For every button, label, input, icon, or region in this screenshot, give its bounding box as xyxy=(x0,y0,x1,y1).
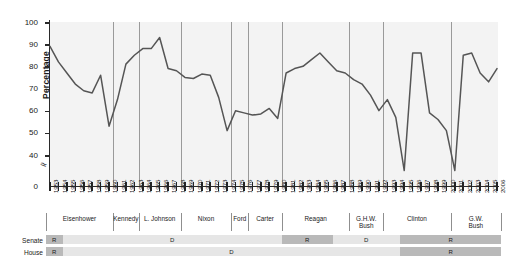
x-tick-label: 1988 xyxy=(348,180,355,193)
x-tick-label: 1991 xyxy=(373,180,380,193)
president-term-label: Kennedy xyxy=(113,215,138,222)
x-tick-label: 1968 xyxy=(179,180,186,193)
president-term-label: G.H.W. Bush xyxy=(349,215,383,229)
x-tick-label: 1981 xyxy=(289,180,296,193)
x-tick-label: 1983 xyxy=(305,180,312,193)
x-tick-label: 1972 xyxy=(213,180,220,193)
senate-control-segment: R xyxy=(46,235,63,244)
x-tick-label: 1975 xyxy=(238,180,245,193)
senate-control-segment: D xyxy=(333,235,400,244)
house-control-segment: R xyxy=(400,247,501,256)
house-control-segment: D xyxy=(63,247,400,256)
x-tick-label: 1986 xyxy=(331,180,338,193)
x-tick-label: 1999 xyxy=(440,180,447,193)
x-tick-label: 1953 xyxy=(52,180,59,193)
x-tick-label: 1997 xyxy=(423,180,430,193)
president-term-label: Nixon xyxy=(181,215,232,222)
president-term-label: Clinton xyxy=(383,215,450,222)
x-tick-label: 1990 xyxy=(364,180,371,193)
x-tick-label: 1994 xyxy=(398,180,405,193)
x-tick-label: 1970 xyxy=(196,180,203,193)
x-tick-label: 1959 xyxy=(103,180,110,193)
president-term-label: L. Johnson xyxy=(139,215,181,222)
x-tick-label: 2001 xyxy=(457,180,464,193)
house-row-label: House xyxy=(0,249,43,256)
x-tick-label: 1985 xyxy=(322,180,329,193)
senate-control-segment: D xyxy=(63,235,282,244)
senate-row-label: Senate xyxy=(0,237,43,244)
x-tick-label: 1982 xyxy=(297,180,304,193)
president-term-label: Reagan xyxy=(282,215,349,222)
x-tick-label: 1964 xyxy=(145,180,152,193)
x-tick-label: 1963 xyxy=(137,180,144,193)
x-tick-label: 1954 xyxy=(61,180,68,193)
x-tick-label: 1961 xyxy=(120,180,127,193)
chart-root: Percentage 1009080706050400 ≃ 1953195419… xyxy=(0,0,513,273)
x-tick-label: 1987 xyxy=(339,180,346,193)
senate-control-segment: R xyxy=(400,235,501,244)
x-tick-label: 1978 xyxy=(263,180,270,193)
x-tick-label: 1998 xyxy=(432,180,439,193)
x-tick-label: 1957 xyxy=(86,180,93,193)
senate-control-segment: R xyxy=(282,235,333,244)
x-tick-label: 1976 xyxy=(246,180,253,193)
x-tick-label: 1967 xyxy=(170,180,177,193)
x-tick-label: 2003 xyxy=(474,180,481,193)
house-control-segment: R xyxy=(46,247,63,256)
x-tick-label: 1969 xyxy=(187,180,194,193)
x-tick-label: 1989 xyxy=(356,180,363,193)
x-tick-label: 2006 xyxy=(499,180,506,193)
x-tick-label: 1979 xyxy=(272,180,279,193)
data-line-presidential-support xyxy=(50,38,497,171)
x-tick-label: 1980 xyxy=(280,180,287,193)
president-term-label: G.W. Bush xyxy=(451,215,502,229)
x-tick-label: 1971 xyxy=(204,180,211,193)
president-term-label: Eisenhower xyxy=(46,215,113,222)
x-tick-label: 2004 xyxy=(483,180,490,193)
x-tick-label: 1956 xyxy=(78,180,85,193)
president-label-separator xyxy=(501,213,502,231)
x-tick-label: 1960 xyxy=(111,180,118,193)
x-tick-label: 1995 xyxy=(407,180,414,193)
x-tick-label: 1996 xyxy=(415,180,422,193)
x-tick-label: 1993 xyxy=(390,180,397,193)
x-tick-label: 1965 xyxy=(154,180,161,193)
x-tick-label: 1977 xyxy=(255,180,262,193)
x-tick-label: 1984 xyxy=(314,180,321,193)
x-tick-label: 2005 xyxy=(491,180,498,193)
x-tick-label: 1955 xyxy=(69,180,76,193)
president-term-label: Carter xyxy=(248,215,282,222)
x-tick-label: 1962 xyxy=(128,180,135,193)
x-tick-label: 2000 xyxy=(449,180,456,193)
x-tick-label: 1974 xyxy=(230,180,237,193)
x-tick-mark xyxy=(49,182,51,191)
president-term-label: Ford xyxy=(231,215,248,222)
x-tick-label: 1966 xyxy=(162,180,169,193)
x-tick-label: 1958 xyxy=(95,180,102,193)
x-tick-label: 1992 xyxy=(381,180,388,193)
support-line-chart xyxy=(0,0,513,273)
x-tick-label: 1973 xyxy=(221,180,228,193)
x-tick-label: 2002 xyxy=(466,180,473,193)
